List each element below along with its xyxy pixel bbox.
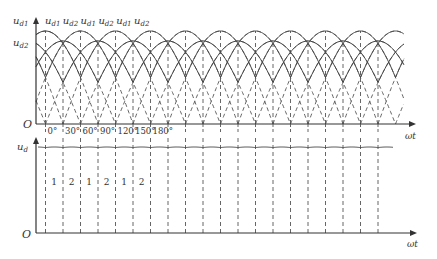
ud1-arc bbox=[308, 31, 404, 124]
interval-label: 1 bbox=[51, 177, 57, 187]
curve-label: ud2 bbox=[63, 15, 79, 28]
angle-tick-label: 90° bbox=[100, 126, 115, 136]
ud2-arc bbox=[396, 104, 404, 124]
top-x-axis-arrow-icon bbox=[409, 121, 416, 127]
bottom-x-axis-arrow-icon bbox=[410, 230, 417, 236]
ud2-arc bbox=[36, 101, 45, 123]
bottom-vertical-dashed-lines bbox=[46, 124, 379, 233]
top-plot: ud1 ud2 O ωt ud1ud2ud1ud2ud1ud2 0°30°60°… bbox=[13, 15, 416, 141]
bottom-omega-t-label: ωt bbox=[407, 239, 418, 249]
curve-label: ud1 bbox=[116, 15, 131, 28]
ud2-arc bbox=[361, 44, 404, 124]
interval-label: 2 bbox=[69, 177, 75, 187]
twelve-pulse-waveform-diagram: ud1 ud2 O ωt ud1ud2ud1ud2ud1ud2 0°30°60°… bbox=[0, 0, 437, 259]
curve-label: ud2 bbox=[134, 15, 150, 28]
ud1-axis-label: ud1 bbox=[13, 15, 28, 28]
angle-tick-label: 60° bbox=[83, 126, 98, 136]
curve-labels: ud1ud2ud1ud2ud1ud2 bbox=[45, 15, 150, 28]
bottom-y-axis-arrow-icon bbox=[33, 137, 39, 144]
curve-label: ud2 bbox=[98, 15, 114, 28]
curve-label: ud1 bbox=[45, 15, 60, 28]
interval-label: 1 bbox=[86, 177, 92, 187]
bottom-origin-label: O bbox=[22, 228, 31, 241]
top-omega-t-label: ωt bbox=[405, 131, 416, 141]
top-origin-label: O bbox=[23, 118, 32, 131]
ud-voltage-arcs bbox=[36, 31, 404, 124]
ud-ripple-waveform bbox=[38, 147, 393, 148]
curve-label: ud1 bbox=[81, 15, 96, 28]
ud1-arc bbox=[36, 31, 133, 124]
ud1-arc bbox=[378, 59, 404, 124]
interval-label: 1 bbox=[121, 177, 127, 187]
ud1-envelope bbox=[396, 60, 404, 78]
bottom-plot: ud O ωt 121212 bbox=[17, 124, 418, 249]
interval-label: 2 bbox=[139, 177, 145, 187]
angle-tick-label: 180° bbox=[153, 126, 173, 136]
ud-axis-label: ud bbox=[17, 141, 28, 154]
interval-label: 2 bbox=[104, 177, 110, 187]
angle-tick-label: 30° bbox=[65, 126, 80, 136]
ud1-arc bbox=[343, 31, 404, 124]
top-y-axis-arrow-icon bbox=[33, 17, 39, 24]
angle-tick-label: 0° bbox=[48, 126, 58, 136]
ud2-axis-label: ud2 bbox=[13, 37, 29, 50]
angle-tick-labels: 0°30°60°90°120°150°180° bbox=[48, 126, 173, 136]
